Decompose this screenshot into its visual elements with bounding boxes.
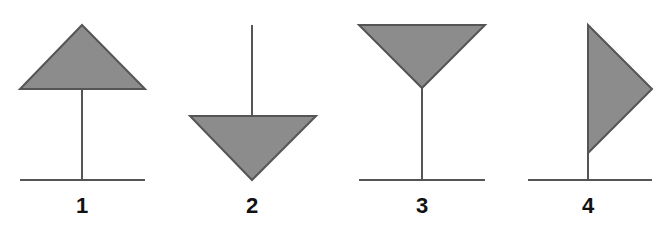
figure-1: 1 xyxy=(20,25,145,218)
pennant-icon xyxy=(588,25,652,153)
triangle-up-icon xyxy=(20,25,145,89)
figure-label: 1 xyxy=(76,193,88,218)
figure-4: 4 xyxy=(528,25,652,218)
triangle-down-icon xyxy=(190,116,316,180)
triangle-down-icon xyxy=(359,25,485,88)
figure-label: 4 xyxy=(582,193,595,218)
figure-label: 3 xyxy=(416,193,428,218)
figure-label: 2 xyxy=(246,193,258,218)
diagram-svg: 1 2 3 4 xyxy=(0,0,672,245)
figure-2: 2 xyxy=(190,25,316,218)
figure-3: 3 xyxy=(359,25,485,218)
symbol-diagram: 1 2 3 4 xyxy=(0,0,672,245)
